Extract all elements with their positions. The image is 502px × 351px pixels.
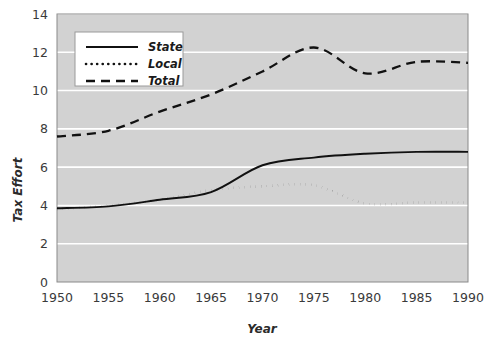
y-tick-label-6: 6 <box>40 160 48 175</box>
legend-label-local: Local <box>148 57 183 71</box>
y-tick-label-4: 4 <box>40 198 48 213</box>
y-tick-label-14: 14 <box>32 7 48 22</box>
x-tick-label-1970: 1970 <box>247 290 279 305</box>
x-tick-label-1975: 1975 <box>298 290 330 305</box>
y-tick-label-10: 10 <box>32 83 48 98</box>
tax-effort-line-chart: 02468101214 1950195519601965197019751980… <box>0 0 502 351</box>
y-axis-title: Tax Effort <box>11 156 25 222</box>
y-tick-label-8: 8 <box>40 121 48 136</box>
x-axis-title: Year <box>247 322 277 336</box>
y-axis-tick-labels: 02468101214 <box>32 7 48 290</box>
x-tick-label-1965: 1965 <box>195 290 227 305</box>
legend-label-total: Total <box>148 74 181 88</box>
legend-label-state: State <box>148 40 183 54</box>
x-tick-label-1980: 1980 <box>349 290 381 305</box>
x-tick-label-1985: 1985 <box>401 290 433 305</box>
y-tick-label-12: 12 <box>32 45 48 60</box>
x-tick-label-1955: 1955 <box>92 290 124 305</box>
y-tick-label-2: 2 <box>40 236 48 251</box>
y-tick-label-0: 0 <box>40 275 48 290</box>
x-tick-label-1990: 1990 <box>452 290 484 305</box>
chart-canvas: 02468101214 1950195519601965197019751980… <box>0 0 502 351</box>
x-axis-tick-labels: 195019551960196519701975198019851990 <box>41 290 484 305</box>
x-tick-label-1950: 1950 <box>41 290 73 305</box>
chart-legend: StateLocalTotal <box>75 32 183 88</box>
x-tick-label-1960: 1960 <box>144 290 176 305</box>
